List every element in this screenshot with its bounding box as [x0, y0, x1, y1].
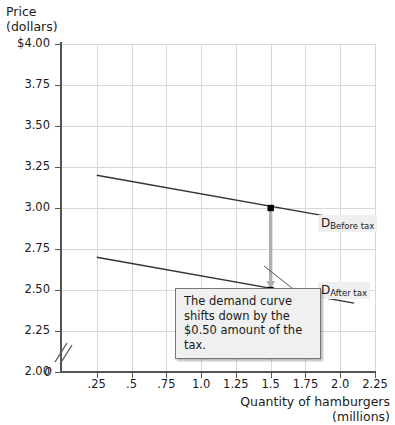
curve-label-before-tax-main: D	[321, 216, 330, 230]
chart-canvas: Price (dollars) Quantity of hamburgers (…	[0, 0, 395, 425]
curve-label-before-tax: DBefore tax	[318, 215, 377, 232]
x-tick-label: 2.25	[355, 377, 395, 391]
gridline-horizontal	[62, 208, 375, 209]
gridline-vertical	[97, 44, 98, 372]
y-tick-label: 2.25	[4, 324, 50, 337]
gridline-horizontal	[62, 167, 375, 168]
x-axis-line	[60, 371, 376, 373]
gridline-horizontal	[62, 249, 375, 250]
gridline-horizontal	[62, 44, 375, 45]
gridline-vertical	[340, 44, 341, 372]
y-axis-line	[60, 42, 62, 372]
y-tick-label: 2.00	[4, 365, 50, 378]
y-tick-label: 2.50	[4, 283, 50, 296]
y-tick-label: 2.75	[4, 242, 50, 255]
curve-label-before-tax-sub: Before tax	[330, 221, 374, 231]
gridline-horizontal	[62, 126, 375, 127]
curve-label-after-tax-main: D	[321, 283, 330, 297]
tax-shift-callout: The demand curve shifts down by the $0.5…	[175, 288, 321, 359]
y-axis-title: Price (dollars)	[6, 4, 58, 34]
gridline-vertical	[166, 44, 167, 372]
curve-label-after-tax: DAfter tax	[318, 282, 370, 299]
gridline-vertical	[132, 44, 133, 372]
curve-label-after-tax-sub: After tax	[330, 288, 367, 298]
gridline-horizontal	[62, 85, 375, 86]
y-axis-break-icon	[52, 340, 74, 368]
y-tick-label: 3.00	[4, 201, 50, 214]
y-tick-label: 3.25	[4, 160, 50, 173]
y-tick-label: $4.00	[4, 37, 50, 50]
y-tick-label: 3.75	[4, 78, 50, 91]
gridline-vertical	[375, 44, 376, 372]
y-tick-label: 3.50	[4, 119, 50, 132]
x-axis-title: Quantity of hamburgers (millions)	[232, 394, 390, 424]
